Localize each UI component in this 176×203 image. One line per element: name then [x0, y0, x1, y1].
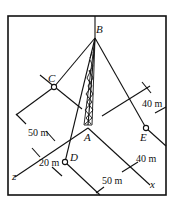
d-along-arrow — [96, 187, 104, 193]
dim-e-offset: 40 m — [142, 98, 163, 109]
label-z-axis: z — [11, 170, 17, 182]
anchor-c — [51, 84, 56, 89]
label-b: B — [96, 23, 103, 35]
tower-guy-wire-diagram: B A C D E z x 50 m 20 m 50 m 40 m 40 m — [0, 0, 176, 203]
label-e: E — [139, 131, 147, 143]
c-dim-line — [16, 87, 54, 115]
anchor-e — [143, 125, 148, 130]
label-a: A — [83, 131, 91, 143]
dim-d-offset: 20 m — [39, 157, 60, 168]
label-d: D — [69, 151, 78, 163]
cable-be — [95, 38, 146, 128]
label-c: C — [48, 72, 56, 84]
dim-e-along: 40 m — [136, 153, 157, 164]
c-dim-tick — [16, 114, 26, 124]
e-reference-line-2 — [146, 128, 166, 146]
label-x-axis: x — [149, 178, 155, 190]
dim-c-offset: 50 m — [28, 127, 49, 138]
dim-d-along: 50 m — [102, 175, 123, 186]
d-dim-arrow-2 — [52, 167, 62, 176]
anchor-d — [62, 159, 67, 164]
tower-lattice — [84, 38, 95, 125]
e-dim-tick — [142, 82, 151, 93]
d-dim-arrow-1 — [32, 148, 40, 157]
d-reference-line — [65, 162, 100, 195]
